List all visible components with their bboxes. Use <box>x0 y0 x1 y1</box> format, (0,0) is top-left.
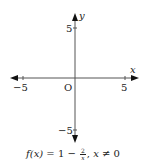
coordinate-axes: y x 5 −5 −5 5 O <box>0 0 146 165</box>
caption-fraction: 2x <box>80 148 86 161</box>
y-axis-up-arrow-icon <box>72 13 78 21</box>
y-axis-label: y <box>78 10 85 21</box>
function-caption: f(x) = 1 − 2x, x ≠ 0 <box>0 148 146 161</box>
y-tick-label-5: 5 <box>66 23 72 34</box>
origin-label: O <box>64 82 72 93</box>
fraction-denominator: x <box>80 155 86 161</box>
x-axis-label: x <box>130 64 136 75</box>
x-tick-label-5: 5 <box>121 82 127 93</box>
caption-eq: = 1 − <box>43 148 79 159</box>
y-tick-label-neg5: −5 <box>58 125 73 136</box>
caption-lhs: f(x) <box>26 148 43 159</box>
caption-tail-rel: ≠ 0 <box>99 148 120 159</box>
x-tick-label-neg5: −5 <box>13 82 28 93</box>
x-axis-right-arrow-icon <box>131 75 139 81</box>
y-axis-down-arrow-icon <box>72 135 78 143</box>
x-axis-left-arrow-icon <box>10 75 18 81</box>
